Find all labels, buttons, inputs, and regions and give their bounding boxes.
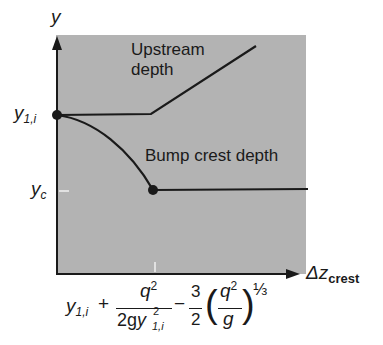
upstream-depth-label: Upstream depth (131, 40, 205, 80)
x-axis-label: Δzcrest (306, 262, 359, 284)
yc-tick-label: yc (31, 178, 47, 200)
y1i-tick-label: y1,i (14, 102, 36, 124)
y-axis-label: y (51, 6, 61, 28)
bump-crest-depth-label: Bump crest depth (145, 146, 278, 166)
critical-depth-line (153, 189, 308, 190)
critical-point (148, 185, 158, 195)
upstream-point (52, 110, 62, 120)
